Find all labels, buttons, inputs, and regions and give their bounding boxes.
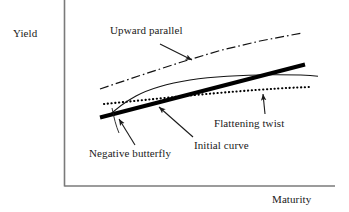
arrow-negative-butterfly xyxy=(119,119,135,145)
annotation-label-flattening-twist: Flattening twist xyxy=(214,117,284,130)
x-axis-label: Maturity xyxy=(272,193,311,206)
arrow-initial-curve xyxy=(159,107,193,137)
y-axis-label: Yield xyxy=(13,27,37,40)
curve-negative-butterfly xyxy=(100,65,305,118)
annotation-label-initial-curve: Initial curve xyxy=(194,139,249,152)
annotation-label-negative-butterfly: Negative butterfly xyxy=(89,147,171,160)
curve-upward-parallel xyxy=(100,33,302,89)
yield-curve-figure: Yield Maturity Upward parallel Flattenin… xyxy=(0,0,349,212)
arrow-flattening-twist xyxy=(263,94,265,114)
arrow-upward-parallel xyxy=(160,44,192,60)
curve-initial xyxy=(108,75,318,117)
annotation-label-upward-parallel: Upward parallel xyxy=(110,24,183,37)
